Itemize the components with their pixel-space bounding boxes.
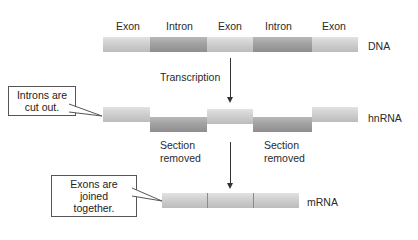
mrna-exon-1 <box>162 193 207 208</box>
exons-callout: Exons are joined together. <box>51 175 137 217</box>
dna-intron-label-1: Intron <box>166 20 193 32</box>
transcription-arrow-line <box>230 58 231 98</box>
splicing-arrow-line <box>230 142 231 184</box>
exons-callout-pointer <box>128 186 168 206</box>
transcription-arrowhead-icon <box>227 97 233 103</box>
dna-intron-2 <box>253 37 312 52</box>
hnrna-label: hnRNA <box>368 112 402 124</box>
splicing-arrowhead-icon <box>227 183 233 189</box>
mrna-junction-2 <box>253 193 254 208</box>
hnrna-exon-3 <box>312 107 358 122</box>
hnrna-exon-1 <box>103 107 150 122</box>
transcription-label: Transcription <box>160 71 220 83</box>
mrna-label: mRNA <box>307 196 338 208</box>
hnrna-intron-2 <box>253 117 312 132</box>
hnrna-intron-1 <box>150 117 207 132</box>
dna-exon-label-3: Exon <box>322 20 346 32</box>
dna-exon-3 <box>312 37 358 52</box>
dna-intron-label-2: Intron <box>265 20 292 32</box>
dna-exon-label-2: Exon <box>218 20 242 32</box>
dna-exon-1 <box>103 37 150 52</box>
introns-callout-pointer <box>60 100 106 120</box>
dna-exon-2 <box>207 37 253 52</box>
dna-intron-1 <box>150 37 207 52</box>
mrna-junction-1 <box>207 193 208 208</box>
removed-label-2: Section removed <box>264 139 305 165</box>
dna-label: DNA <box>368 40 390 52</box>
removed-label-1: Section removed <box>160 139 201 165</box>
dna-exon-label-1: Exon <box>116 20 140 32</box>
mrna-exon-3 <box>253 193 299 208</box>
hnrna-exon-2 <box>207 109 253 124</box>
mrna-exon-2 <box>207 193 253 208</box>
